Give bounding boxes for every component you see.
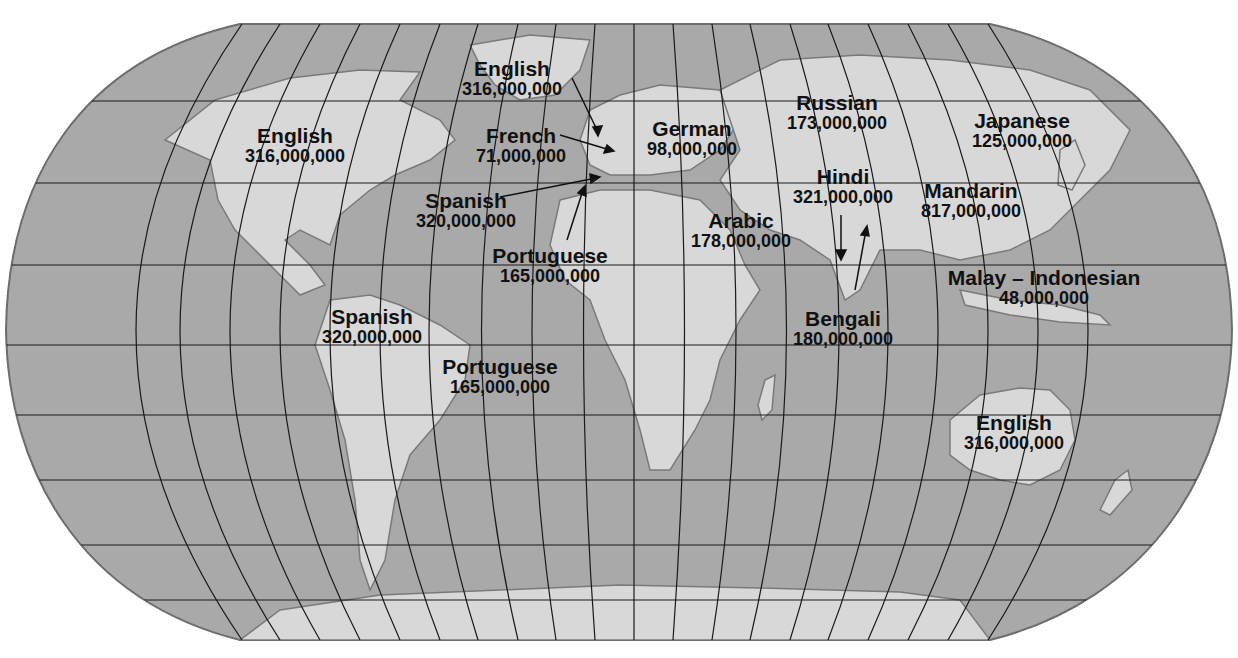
language-name: English — [964, 412, 1064, 433]
speaker-count: 125,000,000 — [972, 132, 1072, 150]
world-map — [0, 0, 1238, 658]
speaker-count: 71,000,000 — [476, 147, 566, 165]
speaker-count: 316,000,000 — [462, 80, 562, 98]
speaker-count: 180,000,000 — [793, 330, 893, 348]
speaker-count: 173,000,000 — [787, 114, 887, 132]
language-name: Russian — [787, 92, 887, 113]
language-name: English — [462, 58, 562, 79]
speaker-count: 316,000,000 — [964, 434, 1064, 452]
speaker-count: 321,000,000 — [793, 188, 893, 206]
label-mandarin: Mandarin817,000,000 — [921, 180, 1021, 220]
speaker-count: 165,000,000 — [442, 378, 558, 396]
language-name: German — [647, 118, 737, 139]
label-bengali: Bengali180,000,000 — [793, 308, 893, 348]
speaker-count: 817,000,000 — [921, 202, 1021, 220]
language-name: Spanish — [416, 190, 516, 211]
language-name: Portuguese — [492, 245, 608, 266]
speaker-count: 178,000,000 — [691, 232, 791, 250]
speaker-count: 316,000,000 — [245, 147, 345, 165]
label-english-north-america: English316,000,000 — [245, 125, 345, 165]
speaker-count: 165,000,000 — [492, 267, 608, 285]
speaker-count: 98,000,000 — [647, 140, 737, 158]
language-name: Bengali — [793, 308, 893, 329]
label-russian: Russian173,000,000 — [787, 92, 887, 132]
language-name: Malay – Indonesian — [948, 267, 1141, 288]
label-spanish-spain: Spanish320,000,000 — [416, 190, 516, 230]
language-name: Spanish — [322, 306, 422, 327]
language-name: Japanese — [972, 110, 1072, 131]
label-spanish-south-america: Spanish320,000,000 — [322, 306, 422, 346]
label-malay-indonesian: Malay – Indonesian48,000,000 — [948, 267, 1141, 307]
label-portuguese-portugal: Portuguese165,000,000 — [492, 245, 608, 285]
language-name: Hindi — [793, 166, 893, 187]
language-name: English — [245, 125, 345, 146]
speaker-count: 320,000,000 — [322, 328, 422, 346]
label-english-uk: English316,000,000 — [462, 58, 562, 98]
language-name: Portuguese — [442, 356, 558, 377]
language-name: French — [476, 125, 566, 146]
label-portuguese-brazil: Portuguese165,000,000 — [442, 356, 558, 396]
label-arabic: Arabic178,000,000 — [691, 210, 791, 250]
speaker-count: 48,000,000 — [948, 289, 1141, 307]
language-name: Arabic — [691, 210, 791, 231]
label-japanese: Japanese125,000,000 — [972, 110, 1072, 150]
label-english-australia: English316,000,000 — [964, 412, 1064, 452]
language-name: Mandarin — [921, 180, 1021, 201]
label-hindi: Hindi321,000,000 — [793, 166, 893, 206]
label-french: French71,000,000 — [476, 125, 566, 165]
label-german: German98,000,000 — [647, 118, 737, 158]
speaker-count: 320,000,000 — [416, 212, 516, 230]
